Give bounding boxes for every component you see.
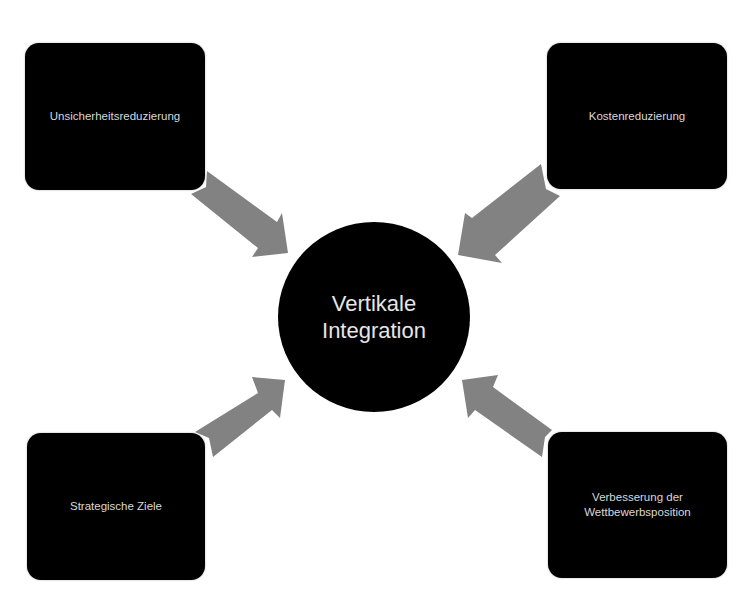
- box-strategische-ziele: Strategische Ziele: [27, 433, 205, 580]
- arrow-top-right-icon: [458, 164, 560, 263]
- box-verbesserung-wettbewerbsposition: Verbesserung der Wettbewerbsposition: [548, 432, 727, 578]
- box-label-line2: Wettbewerbsposition: [584, 505, 691, 520]
- arrow-top-left-icon: [191, 171, 288, 257]
- box-label: Kostenreduzierung: [589, 109, 686, 124]
- center-circle-vertikale-integration: Vertikale Integration: [278, 222, 470, 412]
- box-kostenreduzierung: Kostenreduzierung: [547, 43, 727, 189]
- center-label-line2: Integration: [322, 317, 426, 344]
- center-label-line1: Vertikale: [332, 290, 416, 317]
- box-label: Unsicherheitsreduzierung: [50, 109, 180, 124]
- box-unsicherheitsreduzierung: Unsicherheitsreduzierung: [25, 43, 205, 190]
- arrow-bottom-left-icon: [195, 377, 285, 457]
- arrow-bottom-right-icon: [462, 375, 552, 457]
- box-label-line1: Verbesserung der: [584, 490, 691, 505]
- box-label: Strategische Ziele: [70, 499, 162, 514]
